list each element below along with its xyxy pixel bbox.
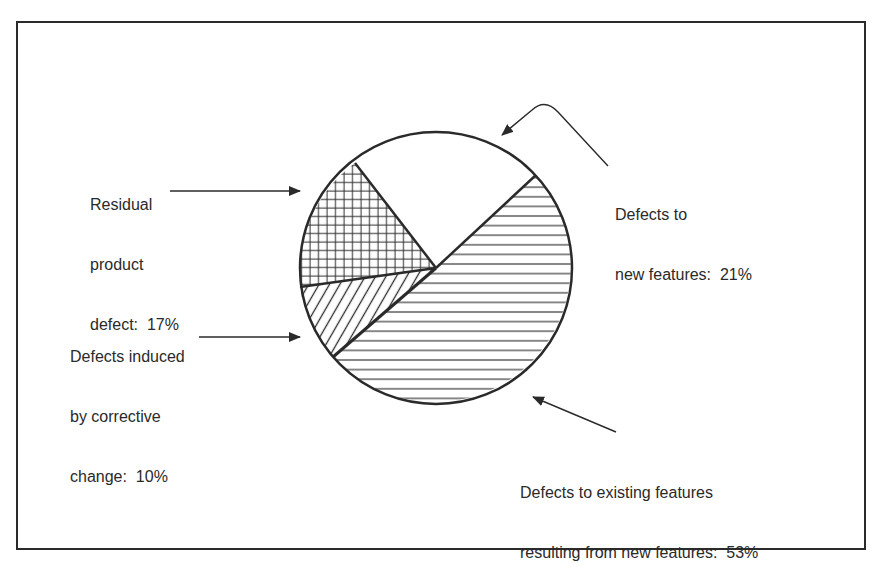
arrow-new-features — [502, 104, 608, 166]
label-line: change: 10% — [70, 467, 185, 487]
label-line: Defects to existing features — [520, 483, 758, 503]
label-new-features: Defects to new features: 21% — [615, 165, 752, 305]
label-line: new features: 21% — [615, 265, 752, 285]
label-line: Defects to — [615, 205, 752, 225]
label-line: resulting from new features: 53% — [520, 543, 758, 563]
label-corrective-change: Defects induced by corrective change: 10… — [70, 307, 185, 507]
label-existing-features: Defects to existing features resulting f… — [520, 443, 758, 567]
arrow-existing — [533, 397, 616, 432]
label-line: Defects induced — [70, 347, 185, 367]
label-line: product — [90, 255, 179, 275]
label-line: by corrective — [70, 407, 185, 427]
label-line: Residual — [90, 195, 179, 215]
